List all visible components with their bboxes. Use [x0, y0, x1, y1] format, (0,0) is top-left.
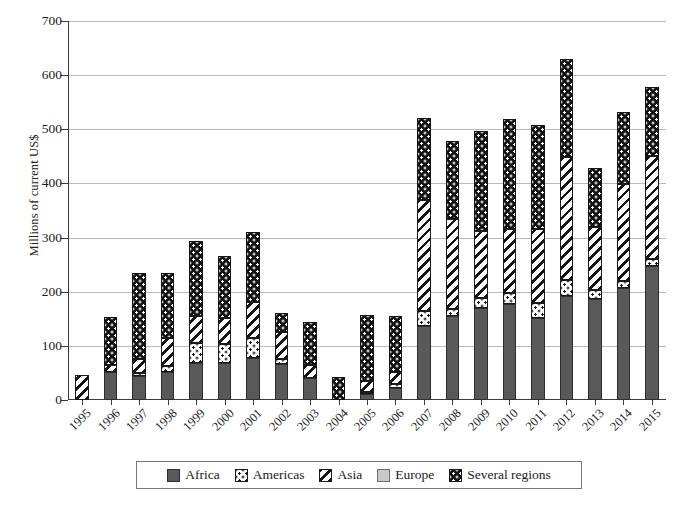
bar-segment-several[interactable] — [446, 141, 460, 219]
bar-segment-several[interactable] — [218, 256, 232, 318]
bar-group[interactable] — [104, 21, 118, 400]
bar-segment-africa[interactable] — [474, 308, 488, 400]
bar-segment-americas[interactable] — [218, 344, 232, 363]
bar-segment-several[interactable] — [246, 232, 260, 302]
bar-segment-africa[interactable] — [417, 326, 431, 400]
bar-segment-asia[interactable] — [132, 359, 146, 373]
bar-segment-americas[interactable] — [531, 303, 545, 318]
bar-group[interactable] — [360, 21, 374, 400]
bar-segment-africa[interactable] — [503, 304, 517, 400]
bar-segment-several[interactable] — [275, 313, 289, 331]
bar-segment-americas[interactable] — [246, 338, 260, 357]
bar-segment-asia[interactable] — [389, 372, 403, 384]
bar-segment-americas[interactable] — [189, 343, 203, 363]
bar-segment-africa[interactable] — [275, 364, 289, 400]
bar-group[interactable] — [303, 21, 317, 400]
bar-segment-several[interactable] — [417, 118, 431, 200]
bar-segment-several[interactable] — [503, 119, 517, 230]
x-tick-mark — [595, 400, 596, 405]
bar-segment-several[interactable] — [132, 273, 146, 360]
bar-segment-several[interactable] — [332, 377, 346, 400]
bar-segment-asia[interactable] — [189, 316, 203, 343]
bar-segment-asia[interactable] — [275, 332, 289, 359]
bar-segment-several[interactable] — [588, 168, 602, 228]
bar-segment-americas[interactable] — [588, 290, 602, 299]
bar-group[interactable] — [275, 21, 289, 400]
bar-segment-several[interactable] — [645, 87, 659, 156]
bar-segment-africa[interactable] — [104, 372, 118, 400]
bar-segment-several[interactable] — [104, 317, 118, 365]
bar-segment-africa[interactable] — [189, 363, 203, 400]
bar-segment-africa[interactable] — [560, 296, 574, 400]
bar-segment-asia[interactable] — [75, 375, 89, 400]
bar-group[interactable] — [417, 21, 431, 400]
bar-segment-asia[interactable] — [104, 365, 118, 372]
bar-segment-africa[interactable] — [246, 358, 260, 400]
bar-segment-asia[interactable] — [588, 227, 602, 289]
bar-segment-asia[interactable] — [161, 338, 175, 366]
bar-segment-americas[interactable] — [645, 259, 659, 267]
bar-segment-several[interactable] — [161, 273, 175, 339]
bar-group[interactable] — [218, 21, 232, 400]
bar-segment-africa[interactable] — [531, 318, 545, 400]
bar-segment-several[interactable] — [474, 131, 488, 230]
bar-segment-americas[interactable] — [560, 280, 574, 296]
legend-item-europe[interactable]: Europe — [377, 467, 434, 483]
bar-segment-asia[interactable] — [560, 157, 574, 280]
bar-segment-asia[interactable] — [303, 365, 317, 379]
bar-group[interactable] — [332, 21, 346, 400]
x-tick-mark — [253, 400, 254, 405]
bar-group[interactable] — [75, 21, 89, 400]
bar-segment-asia[interactable] — [246, 302, 260, 338]
bar-segment-africa[interactable] — [446, 316, 460, 400]
bar-segment-asia[interactable] — [417, 200, 431, 310]
legend-item-asia[interactable]: Asia — [319, 467, 362, 483]
bar-segment-africa[interactable] — [645, 266, 659, 400]
bar-segment-africa[interactable] — [218, 363, 232, 400]
legend-item-africa[interactable]: Africa — [167, 467, 219, 483]
bar-segment-americas[interactable] — [446, 309, 460, 316]
bar-group[interactable] — [645, 21, 659, 400]
bar-segment-several[interactable] — [531, 125, 545, 229]
bar-segment-americas[interactable] — [417, 311, 431, 326]
bar-segment-africa[interactable] — [161, 372, 175, 400]
bar-segment-africa[interactable] — [303, 378, 317, 400]
bar-segment-several[interactable] — [189, 241, 203, 316]
bar-group[interactable] — [446, 21, 460, 400]
bar-segment-africa[interactable] — [389, 388, 403, 400]
bar-segment-asia[interactable] — [531, 229, 545, 302]
bar-group[interactable] — [389, 21, 403, 400]
bar-segment-asia[interactable] — [617, 184, 631, 281]
bar-group[interactable] — [617, 21, 631, 400]
bar-segment-several[interactable] — [617, 112, 631, 184]
bar-segment-africa[interactable] — [588, 299, 602, 400]
legend-item-americas[interactable]: Americas — [235, 467, 305, 483]
bar-group[interactable] — [161, 21, 175, 400]
bar-group[interactable] — [474, 21, 488, 400]
bar-group[interactable] — [531, 21, 545, 400]
bar-segment-several[interactable] — [389, 316, 403, 373]
bar-segment-americas[interactable] — [474, 298, 488, 308]
bar-segment-asia[interactable] — [218, 318, 232, 343]
bar-segment-asia[interactable] — [645, 156, 659, 258]
bar-group[interactable] — [132, 21, 146, 400]
bar-segment-several[interactable] — [360, 315, 374, 381]
bar-segment-asia[interactable] — [474, 231, 488, 299]
bar-segment-asia[interactable] — [446, 219, 460, 309]
bar-group[interactable] — [246, 21, 260, 400]
legend-swatch-several-icon — [449, 469, 462, 482]
bar-segment-africa[interactable] — [132, 376, 146, 400]
bar-group[interactable] — [503, 21, 517, 400]
bar-segment-africa[interactable] — [617, 288, 631, 400]
bar-segment-americas[interactable] — [503, 293, 517, 303]
bar-group[interactable] — [560, 21, 574, 400]
legend-item-several[interactable]: Several regions — [449, 467, 551, 483]
bar-segment-several[interactable] — [303, 322, 317, 365]
bar-stack — [389, 316, 403, 400]
bar-segment-asia[interactable] — [360, 381, 374, 391]
bar-group[interactable] — [189, 21, 203, 400]
bar-segment-asia[interactable] — [503, 229, 517, 293]
bar-stack — [588, 168, 602, 400]
bar-group[interactable] — [588, 21, 602, 400]
bar-segment-several[interactable] — [560, 59, 574, 156]
